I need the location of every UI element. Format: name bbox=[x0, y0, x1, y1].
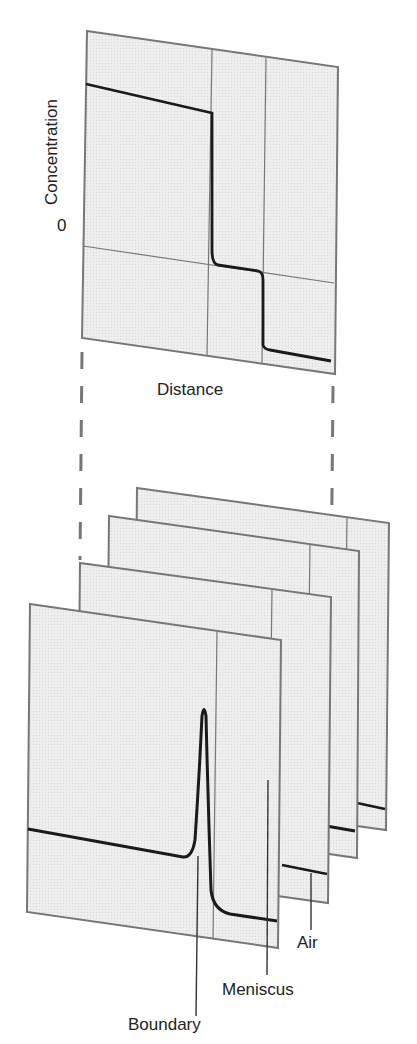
meniscus-label: Meniscus bbox=[222, 980, 294, 1000]
y-axis-label: Concentration bbox=[42, 99, 62, 205]
x-axis-label: Distance bbox=[157, 380, 223, 400]
zero-label: 0 bbox=[57, 216, 66, 236]
air-label: Air bbox=[297, 933, 318, 953]
diagram-canvas bbox=[0, 0, 417, 1044]
panel-1 bbox=[27, 604, 281, 948]
boundary-label: Boundary bbox=[128, 1015, 201, 1035]
left-dashed-line bbox=[80, 352, 82, 560]
concentration-plot bbox=[82, 31, 338, 374]
